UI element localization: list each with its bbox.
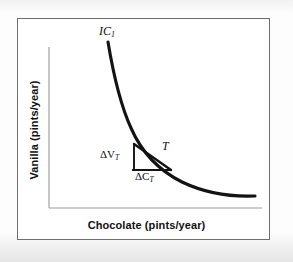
curve-label-subscript: 1 [111,30,115,39]
delta-horizontal-subscript: T [149,175,153,184]
delta-horizontal-label: ΔCT [135,170,154,182]
curve-label-ic1: IC1 [99,24,115,39]
delta-horizontal-text: ΔC [135,170,149,182]
delta-vertical-label: ΔVT [100,148,119,160]
x-axis-title: Chocolate (pints/year) [0,219,293,231]
tangency-point-label: T [162,139,169,154]
curve-label-text: IC [99,24,111,38]
y-axis-title: Vanilla (pints/year) [28,50,40,210]
delta-vertical-text: ΔV [100,148,115,160]
delta-vertical-subscript: T [115,153,119,162]
figure-page: IC1 T ΔVT ΔCT Chocolate (pints/year) Van… [0,0,293,262]
indifference-curve-ic1 [108,42,255,196]
